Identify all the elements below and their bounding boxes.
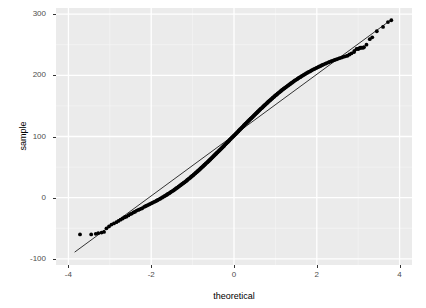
data-point: [78, 233, 82, 237]
plot-canvas: [56, 8, 412, 265]
data-point: [381, 25, 385, 29]
x-tick-label: -2: [148, 271, 155, 279]
y-tick-mark: [53, 14, 56, 15]
x-tick-mark: [68, 265, 69, 268]
data-point: [375, 29, 379, 33]
data-point: [89, 233, 93, 237]
qq-plot-figure: -1000100200300 -4-2024 sample theoretica…: [0, 0, 426, 308]
x-axis-title: theoretical: [213, 291, 255, 301]
y-tick-mark: [53, 75, 56, 76]
x-tick-label: 4: [397, 271, 401, 279]
y-tick-mark: [53, 198, 56, 199]
data-point: [370, 35, 374, 39]
data-point: [365, 43, 369, 47]
x-tick-mark: [400, 265, 401, 268]
x-tick-label: -4: [65, 271, 72, 279]
y-tick-label: -100: [14, 255, 46, 263]
x-tick-mark: [234, 265, 235, 268]
data-point: [96, 231, 100, 235]
y-tick-mark: [53, 137, 56, 138]
y-tick-label: 200: [14, 71, 46, 79]
y-tick-mark: [53, 259, 56, 260]
y-tick-label: 0: [14, 194, 46, 202]
data-points: [78, 18, 393, 236]
y-axis-title: sample: [18, 121, 28, 150]
y-tick-label: 300: [14, 10, 46, 18]
plot-panel: [56, 8, 412, 265]
x-tick-label: 0: [232, 271, 236, 279]
data-point: [102, 230, 106, 234]
x-tick-mark: [151, 265, 152, 268]
data-point: [389, 18, 393, 22]
x-tick-mark: [317, 265, 318, 268]
x-tick-label: 2: [315, 271, 319, 279]
data-point: [386, 20, 390, 24]
